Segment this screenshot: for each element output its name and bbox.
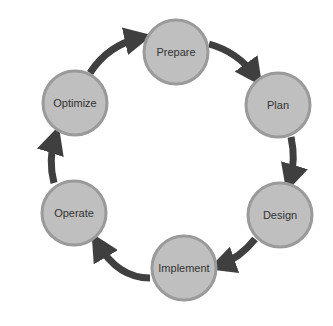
arrow-optimize-to-prepare (90, 38, 140, 73)
arrow-prepare-to-plan (209, 44, 255, 76)
node-design: Design (248, 183, 312, 247)
node-implement: Implement (152, 236, 216, 300)
arrow-design-to-implement (220, 239, 255, 265)
arrow-operate-to-optimize (51, 138, 55, 183)
node-label: Operate (54, 207, 94, 219)
node-label: Implement (158, 262, 209, 274)
arrow-implement-to-operate (98, 244, 150, 278)
node-optimize: Optimize (43, 71, 107, 135)
node-operate: Operate (42, 181, 106, 245)
cycle-diagram: Prepare Plan Design Implement Operate Op… (0, 0, 333, 326)
diagram-svg: Prepare Plan Design Implement Operate Op… (0, 0, 333, 326)
node-label: Design (263, 209, 297, 221)
node-label: Prepare (156, 46, 195, 58)
node-prepare: Prepare (144, 20, 208, 84)
node-plan: Plan (246, 73, 310, 137)
node-label: Plan (267, 99, 289, 111)
node-label: Optimize (53, 97, 96, 109)
arrow-plan-to-design (290, 137, 293, 180)
